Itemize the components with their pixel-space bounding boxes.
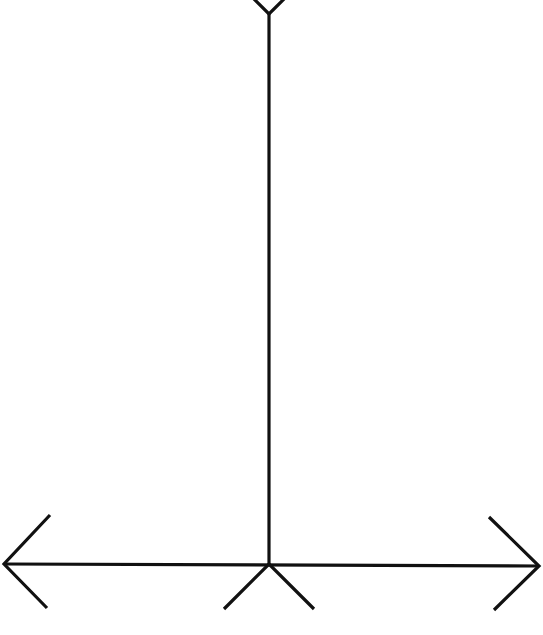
right-arrowhead [489, 517, 539, 610]
illusion-figure [0, 0, 543, 635]
bottom-fins [224, 564, 314, 609]
top-fin [253, 0, 285, 14]
left-arrowhead [4, 515, 50, 608]
